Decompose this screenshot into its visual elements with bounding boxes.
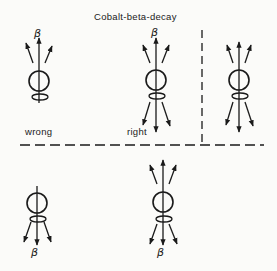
- nucleus-bottom-middle: [150, 160, 177, 245]
- beta-decay-diagram: [0, 0, 277, 271]
- nucleus-top-left: [26, 38, 52, 103]
- nucleus-bottom-left: [24, 186, 51, 245]
- nucleus-top-right: [226, 42, 253, 132]
- nucleus-top-middle: [143, 38, 170, 132]
